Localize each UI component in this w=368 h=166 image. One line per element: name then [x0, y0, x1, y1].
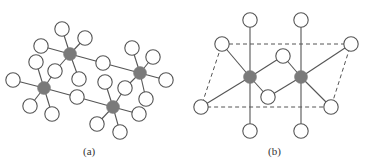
ligand-atom	[294, 13, 308, 27]
ligand-atom	[55, 22, 69, 36]
ligand-atom	[194, 100, 208, 114]
caption-b: (b)	[268, 145, 281, 157]
ligand-atom	[294, 124, 308, 138]
ligand-atom	[96, 56, 110, 70]
ligand-atom	[118, 81, 132, 95]
ligand-atom	[45, 107, 59, 121]
ligand-atom	[6, 73, 20, 87]
ligand-atom	[276, 49, 290, 63]
ligand-atom	[70, 90, 84, 104]
ligand-atom	[324, 100, 338, 114]
center-atoms-a	[38, 48, 147, 114]
ligand-atoms-b	[194, 13, 358, 138]
ligand-atom	[243, 124, 257, 138]
ligand-atom	[344, 37, 358, 51]
panel-a-octahedral-chain	[6, 22, 173, 139]
ligand-atom	[98, 75, 112, 89]
center-atom	[134, 67, 147, 80]
caption-a: (a)	[83, 145, 95, 157]
bond-line	[201, 77, 250, 107]
ligand-atom	[146, 50, 160, 64]
ligand-atom	[159, 73, 173, 87]
center-atom	[107, 101, 120, 114]
ligand-atom	[139, 92, 153, 106]
center-atom	[64, 48, 77, 61]
ligand-atom	[215, 37, 229, 51]
ligand-atom	[72, 72, 86, 86]
center-atoms-b	[244, 71, 308, 84]
ligand-atom	[78, 31, 92, 45]
ligand-atom	[125, 41, 139, 55]
ligand-atom	[90, 117, 104, 131]
ligand-atom	[113, 125, 127, 139]
ligand-atom	[261, 90, 275, 104]
ligand-atom	[29, 55, 43, 69]
ligand-atoms-a	[6, 22, 173, 139]
bond-line	[301, 44, 351, 77]
ligand-atom	[243, 13, 257, 27]
ligand-atom	[23, 99, 37, 113]
center-atom	[295, 71, 308, 84]
ligand-atom	[132, 107, 146, 121]
ligand-atom	[34, 39, 48, 53]
center-atom	[38, 82, 51, 95]
panel-b-unit-cell	[194, 13, 358, 138]
center-atom	[244, 71, 257, 84]
crystal-structure-figure	[0, 0, 368, 166]
ligand-atom	[48, 64, 62, 78]
